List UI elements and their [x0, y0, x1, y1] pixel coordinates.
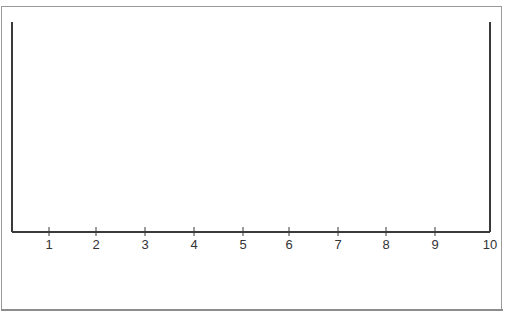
tick-label: 8 — [382, 238, 389, 251]
tick-label: 10 — [483, 238, 497, 251]
tick-label: 7 — [334, 238, 341, 251]
tick-label: 1 — [45, 238, 52, 251]
tick-label: 4 — [190, 238, 197, 251]
open-box — [12, 22, 490, 232]
tick-label: 3 — [141, 238, 148, 251]
tick-label: 6 — [285, 238, 292, 251]
tick-label: 5 — [239, 238, 246, 251]
tick-label: 9 — [431, 238, 438, 251]
tick-label: 2 — [92, 238, 99, 251]
number-line-diagram — [0, 0, 505, 316]
